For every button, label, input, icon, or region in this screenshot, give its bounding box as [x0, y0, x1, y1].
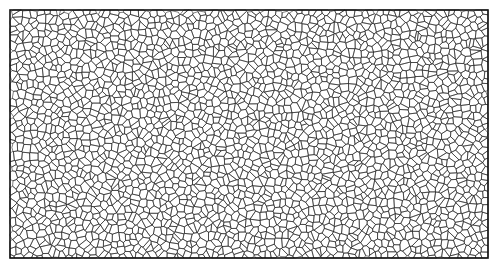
voronoi-cells [10, 10, 488, 258]
voronoi-canvas [0, 0, 497, 266]
cell-edges [10, 10, 488, 258]
voronoi-diagram [0, 0, 497, 266]
